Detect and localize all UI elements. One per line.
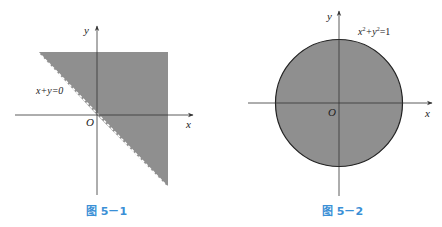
x-axis-label: x xyxy=(185,118,191,130)
figure-5-1: y x O x+y=0 图 5－1 xyxy=(15,24,193,218)
equation-label: x2+y2=1 xyxy=(357,26,390,37)
origin-label: O xyxy=(328,106,336,118)
figure-caption: 图 5－2 xyxy=(322,205,363,218)
y-axis-label: y xyxy=(326,10,332,22)
y-axis-label: y xyxy=(83,24,89,36)
x-axis-label: x xyxy=(424,107,430,119)
origin-label: O xyxy=(86,116,94,128)
figure-caption: 图 5－1 xyxy=(86,205,127,218)
figure-5-2: y x O x2+y2=1 图 5－2 xyxy=(248,10,432,218)
equation-label: x+y=0 xyxy=(35,85,63,96)
diagram-canvas: y x O x+y=0 图 5－1 y x O x2+y2=1 图 5－2 xyxy=(0,0,442,227)
shaded-half-plane-region xyxy=(38,52,168,187)
